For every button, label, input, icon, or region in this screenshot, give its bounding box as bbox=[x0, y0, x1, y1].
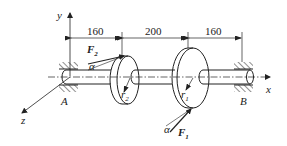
z-axis-label: z bbox=[20, 114, 26, 126]
bearing-b-label: B bbox=[240, 95, 247, 107]
force-f1-label: F1 bbox=[177, 126, 189, 141]
shaft-diagram: y 160 200 160 A B bbox=[0, 0, 287, 146]
pulley-1: r1 bbox=[172, 48, 209, 108]
force-f2-label: F2 bbox=[86, 43, 98, 58]
angle-alpha-2: α bbox=[89, 60, 95, 72]
force-f1: F1 α bbox=[164, 109, 191, 141]
x-axis-label: x bbox=[265, 83, 271, 95]
dimension-middle: 200 bbox=[145, 25, 162, 37]
pulley-2: r2 bbox=[110, 56, 139, 104]
bearing-a-label: A bbox=[60, 95, 68, 107]
diagram-canvas: y 160 200 160 A B bbox=[0, 0, 287, 146]
angle-alpha-1: α bbox=[164, 123, 170, 135]
dimension-left: 160 bbox=[87, 25, 104, 37]
y-axis-label: y bbox=[56, 9, 62, 21]
dimension-right: 160 bbox=[205, 25, 222, 37]
